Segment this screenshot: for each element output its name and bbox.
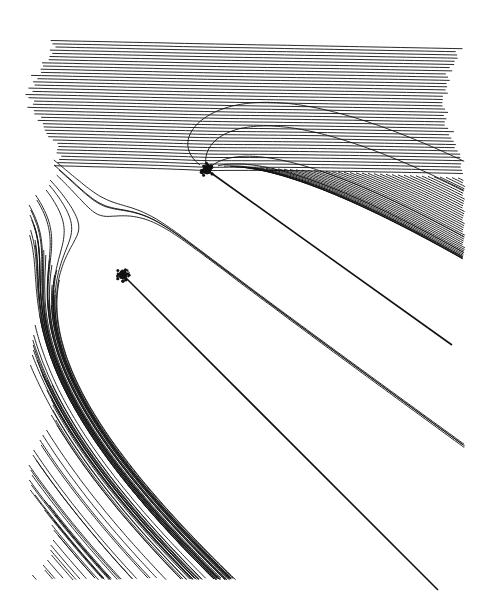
flow-line xyxy=(32,575,36,580)
flow-line xyxy=(43,250,220,579)
upper-source xyxy=(203,166,211,174)
flow-lines-canvas xyxy=(0,0,488,612)
flow-line xyxy=(36,460,132,579)
flow-line xyxy=(45,255,221,578)
flow-line xyxy=(452,178,463,183)
flow-line xyxy=(41,370,195,579)
flow-line xyxy=(458,178,463,181)
flow-line xyxy=(51,41,463,49)
flow-line xyxy=(236,167,462,259)
lower-wake xyxy=(123,275,438,590)
lower-source xyxy=(119,271,127,279)
flow-line xyxy=(57,175,465,448)
flow-line xyxy=(31,210,220,579)
flow-line xyxy=(254,168,463,257)
flow-line xyxy=(57,280,236,580)
flow-line xyxy=(35,495,104,578)
flow-line xyxy=(51,545,80,579)
flow-line xyxy=(51,550,77,580)
flow-line xyxy=(47,260,224,579)
flow-line xyxy=(446,177,465,186)
flow-line xyxy=(54,160,464,444)
